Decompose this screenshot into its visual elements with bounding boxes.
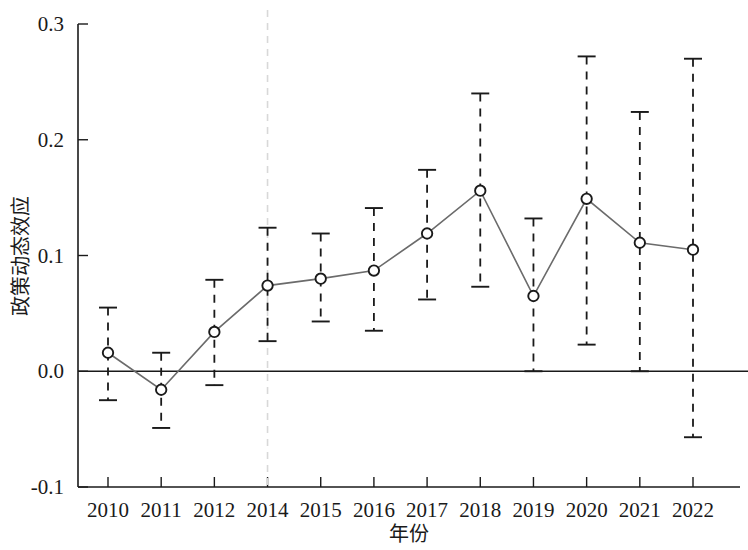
y-tick-label: 0.1	[38, 244, 64, 268]
x-tick-label: 2010	[87, 498, 129, 522]
x-tick-label: 2022	[672, 498, 714, 522]
x-tick-label: 2015	[300, 498, 342, 522]
chart-canvas: -0.10.00.10.20.3 20102011201220142015201…	[0, 0, 748, 550]
dynamic-effect-chart: -0.10.00.10.20.3 20102011201220142015201…	[0, 0, 748, 550]
series-line	[108, 191, 693, 390]
y-tick-label: -0.1	[31, 475, 64, 499]
y-tick-label: 0.3	[38, 12, 64, 36]
x-tick-label: 2017	[406, 498, 448, 522]
data-point-marker	[316, 273, 326, 283]
y-tick-label: 0.0	[38, 359, 64, 383]
data-point-marker	[369, 265, 379, 275]
x-tick-label: 2020	[566, 498, 608, 522]
series-polyline	[108, 191, 693, 390]
data-point-marker	[528, 291, 538, 301]
x-tick-label: 2021	[619, 498, 661, 522]
data-point-marker	[209, 327, 219, 337]
x-tick-label: 2019	[512, 498, 554, 522]
y-axis-ticks	[78, 24, 88, 487]
x-tick-label: 2012	[193, 498, 235, 522]
data-point-marker	[156, 385, 166, 395]
data-point-marker	[262, 280, 272, 290]
y-axis-title: 政策动态效应	[10, 196, 32, 316]
data-point-marker	[688, 245, 698, 255]
data-point-marker	[581, 194, 591, 204]
x-tick-label: 2018	[459, 498, 501, 522]
x-tick-label: 2014	[247, 498, 290, 522]
data-point-marker	[422, 228, 432, 238]
data-point-marker	[475, 185, 485, 195]
x-axis-title: 年份	[389, 523, 429, 545]
data-point-marker	[635, 238, 645, 248]
x-tick-label: 2016	[353, 498, 395, 522]
x-axis-tick-labels: 2010201120122014201520162017201820192020…	[87, 498, 714, 522]
data-point-marker	[103, 348, 113, 358]
x-axis-ticks	[108, 477, 693, 487]
y-axis-tick-labels: -0.10.00.10.20.3	[31, 12, 64, 499]
x-tick-label: 2011	[141, 498, 182, 522]
error-bars	[99, 56, 702, 437]
y-tick-label: 0.2	[38, 128, 64, 152]
